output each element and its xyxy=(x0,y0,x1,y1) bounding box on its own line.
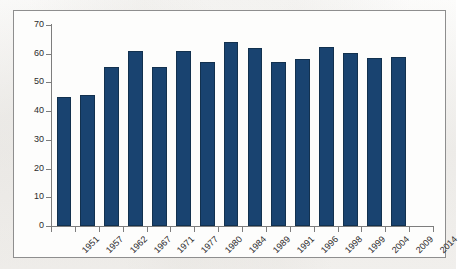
y-axis-tick-label: 0 xyxy=(14,221,44,231)
bar xyxy=(128,51,143,226)
bar xyxy=(57,97,72,226)
bar xyxy=(104,67,119,226)
x-axis-tick xyxy=(266,227,267,232)
y-axis-tick-label-text: 60 xyxy=(20,49,44,58)
x-axis-tick-label: 1989 xyxy=(271,234,292,255)
y-axis-tick-label: 20 xyxy=(14,164,44,174)
y-axis-tick-label: 50 xyxy=(14,77,44,87)
bar xyxy=(295,59,310,226)
bar xyxy=(80,95,95,226)
x-axis-tick-label: 2014 xyxy=(438,234,459,255)
bar xyxy=(248,48,263,226)
bar xyxy=(152,67,167,226)
x-axis-tick xyxy=(314,227,315,232)
bar xyxy=(367,58,382,226)
x-axis-tick xyxy=(75,227,76,232)
x-axis-tick-label: 1977 xyxy=(199,234,220,255)
x-axis-tick xyxy=(433,227,434,232)
bar xyxy=(343,53,358,226)
x-axis-tick xyxy=(99,227,100,232)
chart-frame: 010203040506070 195119571962196719711977… xyxy=(13,10,446,258)
y-axis-tick-label-text: 20 xyxy=(20,164,44,173)
bar xyxy=(176,51,191,226)
x-axis-tick-label: 1999 xyxy=(366,234,387,255)
x-axis-tick xyxy=(242,227,243,232)
x-axis-tick-label: 1984 xyxy=(247,234,268,255)
bar xyxy=(200,62,215,226)
x-axis-tick xyxy=(409,227,410,232)
bar xyxy=(391,57,406,226)
x-axis-tick xyxy=(385,227,386,232)
y-axis-tick-label-text: 40 xyxy=(20,106,44,115)
y-axis-tick-label: 70 xyxy=(14,20,44,30)
bar xyxy=(319,47,334,226)
x-axis-tick-label: 1971 xyxy=(175,234,196,255)
x-axis-tick xyxy=(170,227,171,232)
y-axis-tick-label-text: 30 xyxy=(20,135,44,144)
x-axis-tick xyxy=(51,227,52,232)
x-axis-tick xyxy=(361,227,362,232)
bar xyxy=(271,62,286,226)
y-axis-tick-label-text: 70 xyxy=(20,20,44,29)
y-axis-tick-label: 60 xyxy=(14,49,44,59)
x-axis-tick-label: 1957 xyxy=(104,234,125,255)
x-axis-tick xyxy=(194,227,195,232)
x-axis-tick-label: 1991 xyxy=(295,234,316,255)
x-axis-tick-label: 1951 xyxy=(80,234,101,255)
x-axis-tick-label: 1967 xyxy=(151,234,172,255)
x-axis-tick-label: 1996 xyxy=(319,234,340,255)
y-axis-tick-label: 40 xyxy=(14,106,44,116)
y-axis-tick-label: 10 xyxy=(14,192,44,202)
y-axis-tick-label-text: 10 xyxy=(20,192,44,201)
x-axis-tick xyxy=(218,227,219,232)
y-axis-tick-label-text: 0 xyxy=(20,221,44,230)
x-axis-tick-label: 1962 xyxy=(128,234,149,255)
x-axis-tick-label: 2009 xyxy=(414,234,435,255)
bar-series xyxy=(52,25,434,226)
x-axis-tick-label: 1980 xyxy=(223,234,244,255)
y-axis-tick-label: 30 xyxy=(14,135,44,145)
bar xyxy=(224,42,239,226)
y-axis-tick-label-text: 50 xyxy=(20,77,44,86)
x-axis-tick-label: 2004 xyxy=(390,234,411,255)
x-axis-tick xyxy=(147,227,148,232)
x-axis-tick xyxy=(290,227,291,232)
x-axis-tick xyxy=(338,227,339,232)
x-axis-tick-label: 1998 xyxy=(342,234,363,255)
x-axis-tick xyxy=(123,227,124,232)
